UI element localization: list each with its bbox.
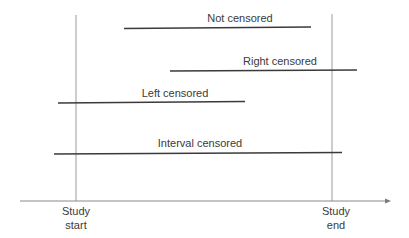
left-censored-label: Left censored (142, 87, 209, 99)
study-start-line2: start (62, 218, 90, 232)
right-censored-label: Right censored (243, 55, 317, 67)
axis-arrow-icon (385, 199, 391, 204)
interval-censored-label: Interval censored (158, 137, 242, 149)
study-end-label: Study end (322, 204, 350, 232)
study-end-line1: Study (322, 204, 350, 218)
left-censored-segment (58, 102, 245, 104)
right-censored-segment (170, 70, 357, 71)
interval-censored-segment (54, 153, 342, 155)
study-start-line1: Study (62, 204, 90, 218)
study-start-label: Study start (62, 204, 90, 232)
censoring-diagram (0, 0, 409, 238)
study-end-line2: end (322, 218, 350, 232)
not-censored-segment (124, 27, 311, 29)
not-censored-label: Not censored (207, 12, 272, 24)
